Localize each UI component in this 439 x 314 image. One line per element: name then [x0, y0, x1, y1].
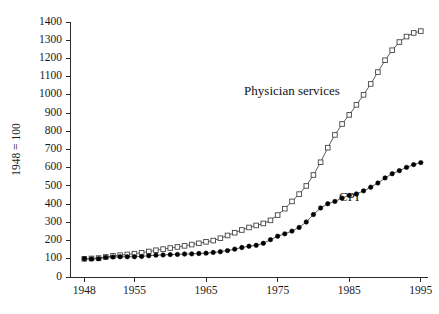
line-chart: 0100200300400500600700800900100011001200… — [0, 0, 439, 314]
y-tick-label: 600 — [45, 160, 63, 172]
data-point — [254, 243, 258, 247]
y-tick-label: 0 — [56, 270, 62, 282]
x-tick-label: 1948 — [73, 284, 96, 296]
data-point — [333, 133, 338, 138]
data-point — [383, 58, 388, 63]
data-point — [268, 218, 273, 223]
data-point — [326, 202, 330, 206]
data-point — [411, 31, 416, 36]
data-point — [347, 113, 352, 118]
data-point — [275, 234, 279, 238]
data-point — [232, 230, 237, 235]
x-tick-label: 1995 — [409, 284, 432, 296]
data-point — [154, 248, 159, 253]
series-line — [84, 31, 421, 259]
data-point — [175, 252, 179, 256]
data-point — [369, 185, 373, 189]
data-point — [132, 255, 136, 259]
data-point — [404, 165, 408, 169]
data-point — [283, 206, 288, 211]
data-point — [368, 82, 373, 87]
y-tick-label: 1300 — [39, 33, 62, 45]
data-point — [297, 225, 301, 229]
y-tick-label: 400 — [45, 197, 63, 209]
chart-container: 0100200300400500600700800900100011001200… — [0, 0, 439, 314]
y-tick-label: 1200 — [39, 51, 62, 63]
data-point — [89, 257, 93, 261]
data-point — [254, 223, 259, 228]
data-point — [147, 253, 151, 257]
data-point — [168, 252, 172, 256]
data-point — [118, 255, 122, 259]
data-point — [361, 189, 365, 193]
data-point — [96, 257, 100, 261]
data-point — [211, 238, 216, 243]
data-point — [290, 229, 294, 233]
x-tick-label: 1955 — [123, 284, 146, 296]
data-point — [275, 213, 280, 218]
data-series-layer — [82, 29, 423, 261]
data-point — [218, 236, 223, 241]
data-point — [204, 240, 209, 245]
y-tick-label: 300 — [45, 215, 63, 227]
data-point — [218, 249, 222, 253]
data-point — [411, 162, 415, 166]
data-point — [325, 145, 330, 150]
data-point — [390, 48, 395, 53]
data-point — [240, 228, 245, 233]
data-point — [268, 237, 272, 241]
y-tick-label: 900 — [45, 106, 63, 118]
data-point — [311, 173, 316, 178]
data-point — [333, 199, 337, 203]
data-point — [161, 247, 166, 252]
data-point — [161, 253, 165, 257]
y-tick-label: 500 — [45, 179, 63, 191]
data-point — [146, 249, 151, 254]
series-2 — [82, 160, 423, 261]
data-point — [197, 251, 201, 255]
series-label-1: Physician services — [244, 83, 340, 98]
data-point — [419, 160, 423, 164]
data-point — [383, 176, 387, 180]
data-point — [261, 221, 266, 226]
data-point — [182, 244, 187, 249]
data-point — [111, 255, 115, 259]
data-point — [189, 242, 194, 247]
y-tick-label: 200 — [45, 233, 63, 245]
y-tick-label: 1000 — [39, 87, 62, 99]
data-point — [404, 34, 409, 39]
data-point — [232, 247, 236, 251]
y-axis-tick-labels: 0100200300400500600700800900100011001200… — [39, 15, 62, 282]
data-point — [82, 257, 86, 261]
data-point — [168, 246, 173, 251]
data-point — [376, 181, 380, 185]
y-tick-label: 1400 — [39, 15, 62, 27]
series-label-2: CPI — [339, 189, 359, 204]
data-point — [419, 29, 424, 34]
data-point — [290, 199, 295, 204]
data-point — [225, 248, 229, 252]
data-point — [225, 233, 230, 238]
data-point — [304, 184, 309, 189]
data-point — [125, 255, 129, 259]
data-point — [397, 40, 402, 45]
data-point — [311, 212, 315, 216]
y-tick-label: 700 — [45, 142, 63, 154]
data-point — [340, 122, 345, 127]
data-point — [297, 192, 302, 197]
data-point — [182, 252, 186, 256]
data-point — [197, 241, 202, 246]
data-point — [361, 93, 366, 98]
series-line — [84, 163, 421, 259]
data-point — [390, 172, 394, 176]
data-point — [318, 160, 323, 165]
data-point — [318, 206, 322, 210]
data-point — [304, 220, 308, 224]
data-point — [104, 255, 108, 259]
data-point — [139, 254, 143, 258]
data-point — [354, 103, 359, 108]
y-tick-label: 1100 — [39, 69, 62, 81]
x-axis-tick-labels: 194819551965197519851995 — [73, 284, 433, 296]
y-axis-title: 1948 = 100 — [10, 123, 22, 176]
series-annotation-layer: Physician servicesCPI — [244, 83, 359, 204]
